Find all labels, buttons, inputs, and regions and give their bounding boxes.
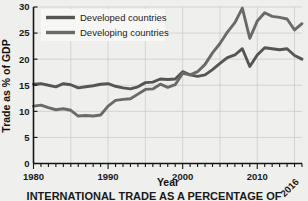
y-tick-label: 30	[19, 1, 30, 12]
y-tick-label: 10	[19, 106, 30, 117]
figure-caption: INTERNATIONAL TRADE AS A PERCENTAGE OF	[27, 190, 282, 201]
legend-label-developed: Developed countries	[80, 12, 167, 23]
trade-percentage-line-chart: 051015202530 1980199020002010 Year Trade…	[0, 0, 308, 201]
x-tick-label: 1980	[23, 171, 44, 182]
y-tick-label: 15	[19, 80, 30, 91]
legend-label-developing: Developing countries	[80, 27, 169, 38]
y-tick-label: 25	[19, 27, 30, 38]
y-tick-label: 5	[24, 132, 30, 143]
x-tick-label: 2010	[247, 171, 268, 182]
y-tick-label: 20	[19, 54, 30, 65]
x-tick-label: 1990	[98, 171, 119, 182]
legend: Developed countries Developing countries	[41, 9, 169, 41]
y-tick-label: 0	[24, 158, 29, 169]
y-axis-title: Trade as % of GDP	[0, 39, 12, 132]
x-axis-title: Year	[157, 176, 179, 188]
